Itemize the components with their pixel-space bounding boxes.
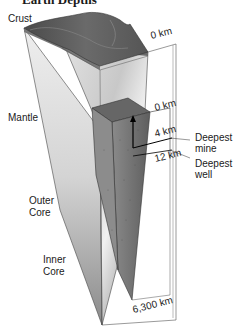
callout-deepest-well-1: Deepest — [195, 158, 232, 169]
inset-block-front — [112, 112, 150, 300]
callout-deepest-mine-1: Deepest — [195, 132, 232, 143]
label-inner-core-1: Inner — [43, 254, 66, 265]
callout-deepest-well-2: well — [195, 169, 212, 180]
callout-deepest-mine-2: mine — [195, 143, 217, 154]
label-outer-core-2: Core — [29, 207, 51, 218]
label-outer-core-1: Outer — [29, 195, 54, 206]
label-inner-core-2: Core — [43, 266, 65, 277]
label-mantle: Mantle — [8, 112, 38, 123]
label-crust: Crust — [8, 13, 32, 24]
